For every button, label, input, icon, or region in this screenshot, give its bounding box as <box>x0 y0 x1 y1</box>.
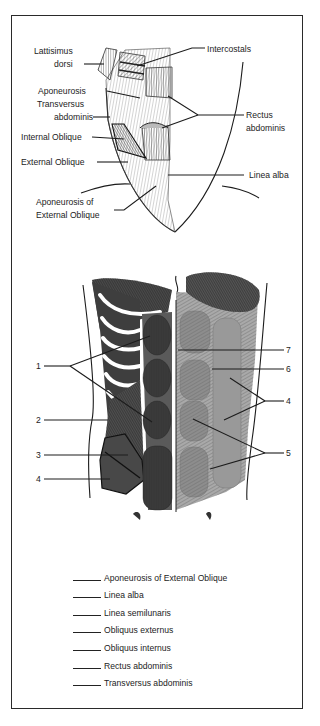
shoulder-curve-right <box>222 186 259 198</box>
label-lattisimus-line2: dorsi <box>54 59 73 69</box>
number-label-2: 2 <box>36 415 41 425</box>
answer-key-item: Linea alba <box>73 584 227 602</box>
shoulder-curve-left <box>81 184 130 193</box>
rectus-abdominis-lower <box>142 126 170 160</box>
answer-blank[interactable] <box>73 685 101 686</box>
label-external-oblique: External Oblique <box>21 157 85 167</box>
answer-key-text: Aponeurosis of External Oblique <box>104 573 227 584</box>
label-aponeurosis-ext-line1: Aponeurosis of <box>36 197 94 207</box>
upper-torso-drawing <box>81 48 259 232</box>
number-label-4-left: 4 <box>36 474 41 484</box>
rectus-abdominis-upper <box>146 67 172 98</box>
answer-blank[interactable] <box>73 668 101 669</box>
answer-key-item: Obliquus internus <box>73 636 227 654</box>
label-rectus-line1: Rectus <box>246 110 273 120</box>
label-linea-alba: Linea alba <box>249 170 289 180</box>
torso-outline-right <box>175 62 243 232</box>
answer-key-text: Obliquus internus <box>104 643 171 654</box>
answer-key-item: Transversus abdominis <box>73 672 227 690</box>
answer-key-item: Rectus abdominis <box>73 654 227 672</box>
lower-torso-drawing <box>83 272 267 520</box>
number-label-5: 5 <box>286 448 291 458</box>
answer-key-item: Aponeurosis of External Oblique <box>73 566 227 584</box>
label-aponeurosis-line2: Transversus <box>37 99 84 109</box>
number-label-6: 6 <box>286 364 291 374</box>
answer-blank[interactable] <box>73 650 101 651</box>
number-label-1: 1 <box>36 361 41 371</box>
answer-blank[interactable] <box>73 632 101 633</box>
label-intercostals: Intercostals <box>207 44 251 54</box>
label-rectus-line2: abdominis <box>246 123 285 133</box>
label-aponeurosis-line1: Aponeurosis <box>38 86 86 96</box>
number-label-3: 3 <box>36 450 41 460</box>
answer-key-text: Transversus abdominis <box>104 678 193 689</box>
label-internal-oblique: Internal Oblique <box>21 132 82 142</box>
answer-key-list: Aponeurosis of External Oblique Linea al… <box>73 566 227 689</box>
number-label-4-right: 4 <box>286 396 291 406</box>
answer-key-text: Linea alba <box>104 590 144 601</box>
number-label-7: 7 <box>286 345 291 355</box>
answer-key-text: Obliquus externus <box>104 625 173 636</box>
label-aponeurosis-line3: abdominis <box>54 112 93 122</box>
label-lattisimus-line1: Lattisimus <box>34 46 73 56</box>
answer-blank[interactable] <box>73 597 101 598</box>
answer-key-text: Rectus abdominis <box>104 661 172 672</box>
answer-blank[interactable] <box>73 580 101 581</box>
answer-key-item: Obliquus externus <box>73 619 227 637</box>
answer-key-text: Linea semilunaris <box>104 608 171 619</box>
label-aponeurosis-ext-line2: External Oblique <box>36 210 100 220</box>
body-outline-left <box>83 285 93 498</box>
answer-blank[interactable] <box>73 615 101 616</box>
answer-key-item: Linea semilunaris <box>73 601 227 619</box>
